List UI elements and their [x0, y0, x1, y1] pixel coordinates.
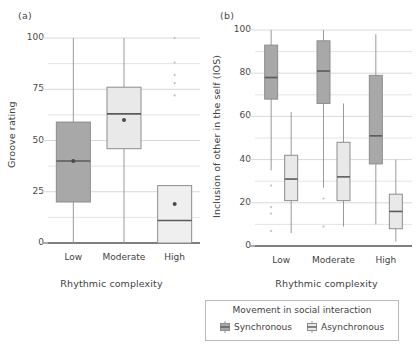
boxplot-swatch-icon — [307, 321, 317, 333]
panel-b: (b) Inclusion of other in the self (IOS)… — [209, 0, 418, 300]
panel-a: (a) Groove rating 0255075100 LowModerate… — [0, 0, 209, 300]
legend: Movement in social interaction Synchrono… — [205, 300, 399, 341]
legend-entry-synchronous[interactable]: Synchronous — [220, 321, 292, 333]
panel-b-x-axis-label: Rhythmic complexity — [239, 278, 414, 289]
panel-b-plot-area — [209, 0, 418, 300]
legend-entry-asynchronous[interactable]: Asynchronous — [307, 321, 384, 333]
panel-a-plot-area — [0, 0, 209, 300]
legend-label-asynchronous: Asynchronous — [321, 322, 384, 332]
panel-a-x-axis-label: Rhythmic complexity — [24, 278, 199, 289]
boxplot-figure: (a) Groove rating 0255075100 LowModerate… — [0, 0, 418, 346]
legend-title: Movement in social interaction — [206, 305, 398, 315]
boxplot-swatch-icon — [220, 321, 230, 333]
legend-label-synchronous: Synchronous — [234, 322, 292, 332]
